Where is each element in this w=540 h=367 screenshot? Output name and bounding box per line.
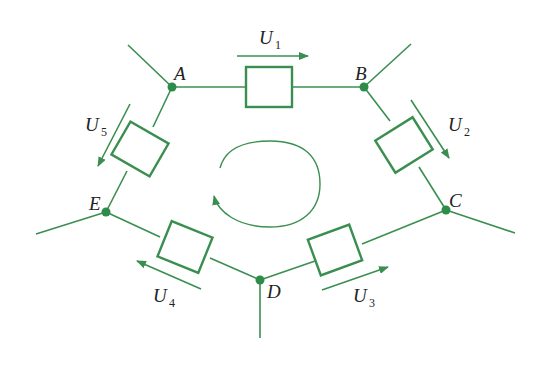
element-5 [111,122,168,177]
node-label-b: B [355,63,367,84]
wire-e-a-bottom [106,171,127,212]
svg-text:3: 3 [369,296,375,310]
wire-d-e-left [106,212,160,237]
svg-text:U: U [448,114,463,135]
branch-e-external [36,212,106,234]
element-4 [157,221,212,273]
wire-c-d-left [260,260,318,280]
node-e [102,208,111,217]
loop-direction-arrow-icon [214,141,320,227]
wire-d-e-right [210,258,260,280]
branch-c-external [446,210,515,233]
node-label-d: D [266,281,281,302]
element-1 [246,67,292,107]
node-d [256,276,265,285]
element-3 [308,225,362,276]
label-u3: U 3 [353,285,375,310]
branch-a-external [128,45,172,87]
label-u2: U 2 [448,114,470,139]
circuit-diagram: A B C D E U 1 U 2 U 3 U 4 U 5 [0,0,540,367]
svg-text:U: U [153,285,168,306]
svg-text:2: 2 [464,125,470,139]
label-u1: U 1 [259,27,281,52]
node-label-e: E [88,193,101,214]
svg-text:5: 5 [101,125,107,139]
branch-b-external [364,44,411,87]
svg-text:U: U [259,27,274,48]
svg-text:1: 1 [275,38,281,52]
wire-b-c-top [364,87,390,121]
svg-text:4: 4 [169,296,175,310]
label-u4: U 4 [153,285,175,310]
wire-c-d-right [362,210,446,244]
svg-text:U: U [85,114,100,135]
element-2 [375,117,432,173]
node-label-c: C [449,190,462,211]
svg-text:U: U [353,285,368,306]
wire-b-c-bottom [419,167,446,210]
node-label-a: A [172,63,186,84]
wire-e-a-top [153,87,172,127]
label-u5: U 5 [85,114,107,139]
